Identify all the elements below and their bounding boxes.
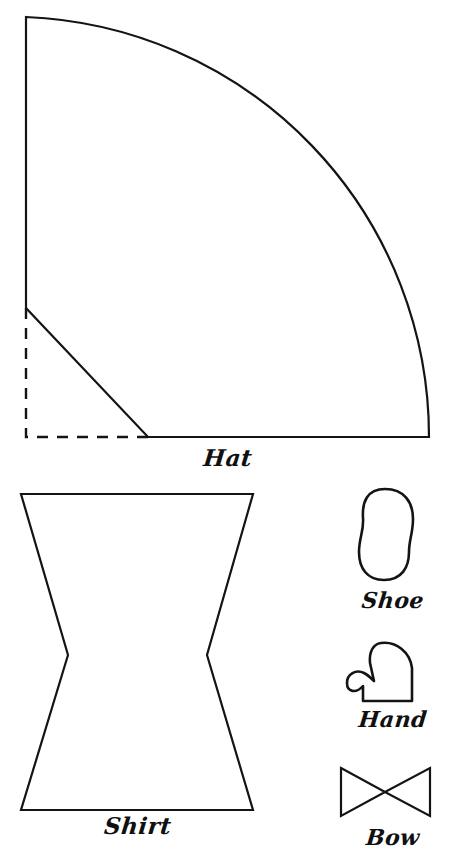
hat-pattern-piece <box>26 17 429 437</box>
shoe-outline <box>359 489 413 580</box>
bow-outline <box>341 768 430 816</box>
hand-pattern-piece <box>347 643 412 701</box>
bow-pattern-piece <box>341 768 430 816</box>
pattern-drawing-canvas <box>0 0 456 863</box>
shirt-pattern-piece <box>21 494 253 810</box>
shirt-label: Shirt <box>0 812 277 839</box>
hat-outline <box>26 17 429 437</box>
shoe-pattern-piece <box>359 489 413 580</box>
pattern-sheet: Hat Shirt Shoe Hand Bow <box>0 0 456 863</box>
hand-label: Hand <box>329 706 456 732</box>
shoe-label: Shoe <box>329 587 456 613</box>
bow-label: Bow <box>329 824 456 850</box>
hand-outline <box>347 643 412 701</box>
shirt-outline <box>21 494 253 810</box>
hat-label: Hat <box>0 444 456 471</box>
